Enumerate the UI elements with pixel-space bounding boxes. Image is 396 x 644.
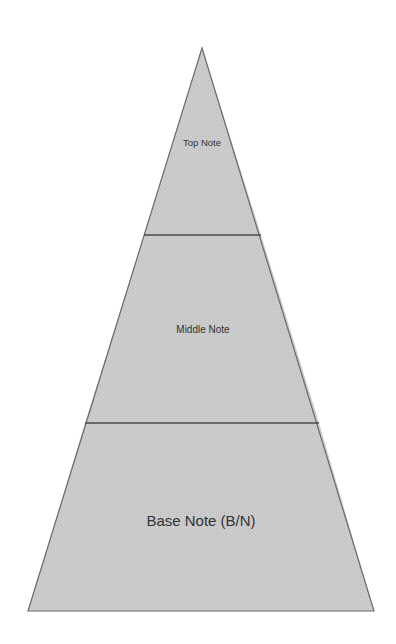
top-note-label: Top Note [183, 137, 221, 148]
fragrance-pyramid: Top Note Middle Note Base Note (B/N) [0, 0, 396, 644]
middle-note-label: Middle Note [176, 324, 230, 335]
base-note-label: Base Note (B/N) [146, 512, 255, 529]
